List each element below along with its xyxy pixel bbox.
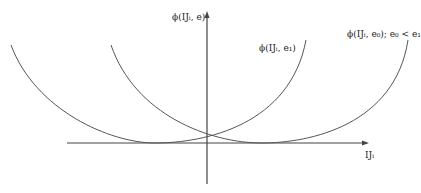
y-axis-arrow-icon (205, 11, 210, 18)
curve-e0 (111, 40, 408, 143)
curve-e1-label: ϕ(Ĳᵢ, e₁) (259, 43, 296, 53)
x-axis-arrow-icon (362, 141, 369, 146)
diagram-canvas: ϕ(Ĳᵢ, e) ϕ(Ĳᵢ, e₁) ϕ(Ĳᵢ, e₀); e₀ < e₁ Ĳᵢ (0, 0, 421, 193)
curve-e0-label: ϕ(Ĳᵢ, e₀); e₀ < e₁ (347, 29, 421, 39)
y-axis-label: ϕ(Ĳᵢ, e) (172, 12, 205, 22)
curve-e1 (11, 40, 306, 143)
x-axis-label: Ĳᵢ (365, 150, 374, 160)
